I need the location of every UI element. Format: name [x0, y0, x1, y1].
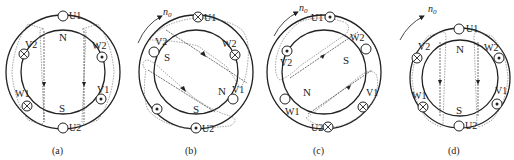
label-u1: U1 [311, 12, 323, 23]
label-u2: U2 [465, 120, 477, 131]
slot-w1-cross-icon [22, 101, 32, 111]
slot-v2-dot-icon [282, 46, 292, 56]
label-w1: W1 [285, 106, 299, 117]
flux-arrow-icon [438, 80, 442, 85]
slot-v1 [228, 94, 238, 104]
flux-arrow-icon [320, 54, 325, 59]
label-v1: V1 [232, 84, 244, 95]
rotation-speed-label: n0 [299, 2, 308, 15]
panel-a: U1 U2 V2 W1 W2 V1 N S (a) [6, 10, 120, 157]
pole-n: N [456, 43, 464, 55]
label-w2: W2 [222, 38, 236, 49]
slot-u2-cross-icon [323, 122, 333, 132]
caption-d: (d) [448, 145, 460, 157]
label-w2: W2 [484, 42, 498, 53]
label-v1: V1 [495, 85, 507, 96]
panel-d: n0 U1 U2 V2 W1 W2 V1 N S (d) [400, 3, 510, 157]
slot-u2-dot-icon [191, 123, 201, 133]
slot-w1-cross-icon [418, 102, 428, 112]
coil-outline-lower [306, 71, 378, 127]
label-u2: U2 [311, 122, 323, 133]
slot-w2-dot-icon [494, 53, 504, 63]
slot-u1 [454, 24, 464, 34]
label-u2: U2 [69, 122, 81, 133]
slot-u2 [454, 121, 464, 131]
label-v2: V2 [155, 36, 167, 47]
slot-w1-dot-icon [152, 104, 162, 114]
pole-n: N [218, 85, 226, 97]
panel-b: n0 U1 U2 V2 W2 V1 S N S (b) [138, 6, 253, 157]
slot-u1-cross-icon [193, 12, 203, 22]
pole-s: S [343, 54, 349, 66]
slot-u2 [58, 123, 68, 133]
slot-u1 [58, 11, 68, 21]
slot-v1-dot-icon [96, 94, 106, 104]
pole-s: S [456, 104, 462, 116]
slot-v1-cross-icon [358, 102, 368, 112]
label-w1: W1 [412, 90, 426, 101]
label-u1: U1 [69, 10, 81, 21]
flux-arrow-icon [180, 86, 186, 92]
slot-v2-cross-icon [412, 53, 422, 63]
label-v1: V1 [366, 87, 378, 98]
caption-b: (b) [185, 145, 197, 157]
rotation-speed-label: n0 [163, 6, 172, 19]
caption-a: (a) [52, 145, 63, 157]
panel-c: n0 U1 U2 V2 W1 W2 V1 S N (c) [267, 2, 381, 157]
pole-n: N [59, 31, 67, 43]
pole-s: S [164, 51, 170, 63]
label-u1: U1 [204, 12, 216, 23]
rotation-arrow-icon [400, 16, 424, 40]
slot-v2 [149, 47, 159, 57]
pole-s: S [193, 103, 199, 115]
label-w1: W1 [15, 88, 29, 99]
rotation-speed-label: n0 [428, 3, 437, 16]
label-u1: U1 [466, 23, 478, 34]
slot-w2-cross-icon [230, 50, 240, 60]
label-w2: W2 [350, 32, 364, 43]
caption-c: (c) [313, 145, 324, 157]
flux-arrow-icon [82, 82, 86, 87]
pole-s: S [59, 102, 65, 114]
slot-v2-cross-icon [19, 49, 29, 59]
label-w2: W2 [92, 40, 106, 51]
label-v2: V2 [280, 57, 292, 68]
slot-v1-dot-icon [492, 99, 502, 109]
pole-n: N [303, 86, 311, 98]
label-u2: U2 [202, 123, 214, 134]
flux-arrow-icon [476, 80, 480, 85]
stator-field-diagram: U1 U2 V2 W1 W2 V1 N S (a) n0 U1 U2 V2 [0, 0, 514, 160]
label-v1: V1 [97, 84, 109, 95]
slot-w2-dot-icon [97, 52, 107, 62]
flux-arrow-icon [200, 51, 206, 57]
slot-w1 [280, 94, 290, 104]
slot-w2 [361, 44, 371, 54]
label-v2: V2 [418, 41, 430, 52]
label-v2: V2 [25, 39, 37, 50]
slot-u1-dot-icon [325, 12, 335, 22]
